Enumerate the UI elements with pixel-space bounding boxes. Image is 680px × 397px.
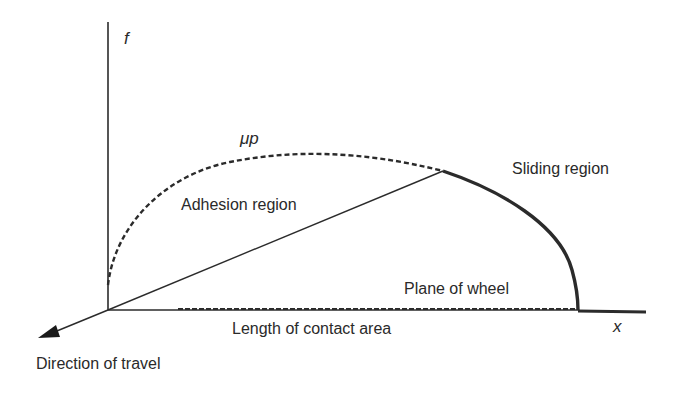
plane-of-wheel-label: Plane of wheel (404, 280, 509, 298)
x-axis-label: x (613, 318, 622, 336)
x-axis-extension (578, 311, 646, 312)
adhesion-region-label: Adhesion region (181, 196, 297, 214)
sliding-region-label: Sliding region (512, 160, 609, 178)
travel-direction-line (52, 310, 108, 333)
mu-p-label: μp (240, 130, 259, 148)
arrowhead-icon (38, 325, 60, 338)
contact-length-label: Length of contact area (232, 320, 391, 338)
adhesion-line (108, 171, 443, 310)
direction-of-travel-label: Direction of travel (36, 355, 161, 373)
mu-p-curve (108, 154, 443, 285)
f-axis-label: f (124, 30, 129, 48)
